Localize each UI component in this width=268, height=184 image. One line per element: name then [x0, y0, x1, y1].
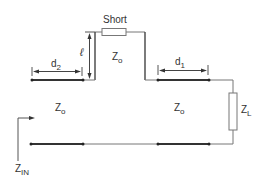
- node: [208, 79, 211, 82]
- line-impedance-right-label: Zo: [174, 102, 185, 116]
- d1-label: d1: [175, 56, 186, 70]
- load-impedance-label: ZL: [241, 104, 252, 118]
- line-impedance-left-label: Zo: [55, 102, 66, 116]
- d2-arrowhead-right: [75, 70, 81, 74]
- stub-length-arrowhead-bottom: [88, 73, 92, 79]
- d2-arrowhead-left: [33, 70, 39, 74]
- node: [157, 143, 160, 146]
- short-label: Short: [103, 14, 127, 25]
- short-resistor: [102, 29, 126, 36]
- input-impedance-label: ZIN: [15, 163, 29, 177]
- tuning-network-diagram: Short ℓ d2 d1 Zo Zo Zo ZL ZIN: [0, 0, 268, 184]
- stub-length-arrowhead-top: [88, 33, 92, 39]
- stub-length-label: ℓ: [79, 46, 84, 58]
- node: [31, 79, 34, 82]
- stub-impedance-label: Zo: [112, 51, 123, 65]
- load-resistor: [229, 93, 237, 130]
- node: [82, 79, 85, 82]
- d1-arrowhead-right: [201, 69, 207, 73]
- zin-arrowhead: [29, 116, 35, 120]
- node: [157, 79, 160, 82]
- node: [208, 143, 211, 146]
- d1-arrowhead-left: [159, 69, 165, 73]
- d2-label: d2: [51, 58, 62, 72]
- node: [30, 143, 33, 146]
- node: [82, 143, 85, 146]
